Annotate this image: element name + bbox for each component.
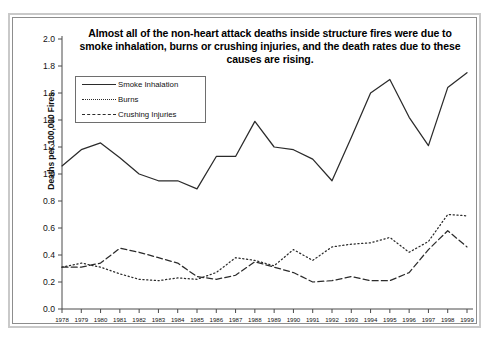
- x-tick-label: 1984: [171, 316, 185, 323]
- x-tick-label: 1982: [132, 316, 146, 323]
- y-tick-label: 0.8: [43, 196, 55, 206]
- y-tick-label: 0.4: [43, 250, 55, 260]
- x-tick-label: 1983: [152, 316, 166, 323]
- legend-line-dotted-icon: [82, 96, 116, 104]
- y-tick-label: 0.6: [43, 223, 55, 233]
- x-tick-label: 1993: [345, 316, 359, 323]
- chart-canvas: Almost all of the non-heart attack death…: [13, 18, 476, 323]
- x-tick-label: 1987: [229, 316, 243, 323]
- x-tick-label: 1979: [75, 316, 89, 323]
- x-tick-label: 1978: [55, 316, 69, 323]
- x-tick-label: 1992: [325, 316, 339, 323]
- y-tick-label: 1.2: [43, 142, 55, 152]
- legend-line-solid-icon: [82, 81, 116, 89]
- x-tick-label: 1988: [248, 316, 262, 323]
- y-tick-label: 1.8: [43, 61, 55, 71]
- x-tick-label: 1986: [210, 316, 224, 323]
- legend-label: Crushing Injuries: [118, 110, 177, 119]
- chart-legend: Smoke Inhalation Burns Crushing Injuries: [75, 76, 206, 123]
- x-tick-label: 1997: [422, 316, 436, 323]
- legend-item-crushing-injuries: Crushing Injuries: [76, 107, 205, 122]
- x-tick-label: 1999: [460, 316, 474, 323]
- x-tick-label: 1981: [113, 316, 127, 323]
- chart-screenshot: Almost all of the non-heart attack death…: [0, 0, 491, 346]
- series-line-burns: [62, 215, 467, 281]
- x-tick-label: 1990: [287, 316, 301, 323]
- legend-item-smoke-inhalation: Smoke Inhalation: [76, 77, 205, 92]
- plot-area: 0.00.20.40.60.81.01.21.41.61.82.01978197…: [13, 18, 476, 323]
- y-tick-label: 1.0: [43, 169, 55, 179]
- legend-label: Burns: [118, 95, 138, 104]
- x-tick-label: 1989: [267, 316, 281, 323]
- x-tick-label: 1994: [364, 316, 378, 323]
- x-tick-label: 1980: [94, 316, 108, 323]
- x-tick-label: 1991: [306, 316, 320, 323]
- series-line-crushing-injuries: [62, 231, 467, 282]
- y-tick-label: 1.4: [43, 115, 55, 125]
- y-tick-label: 2.0: [43, 34, 55, 44]
- y-tick-label: 0.2: [43, 277, 55, 287]
- legend-label: Smoke Inhalation: [118, 80, 178, 89]
- x-tick-label: 1995: [383, 316, 397, 323]
- y-tick-label: 1.6: [43, 88, 55, 98]
- x-tick-label: 1985: [190, 316, 204, 323]
- y-tick-label: 0.0: [43, 304, 55, 314]
- legend-item-burns: Burns: [76, 92, 205, 107]
- x-tick-label: 1998: [441, 316, 455, 323]
- x-tick-label: 1996: [402, 316, 416, 323]
- legend-line-dashed-icon: [82, 111, 116, 119]
